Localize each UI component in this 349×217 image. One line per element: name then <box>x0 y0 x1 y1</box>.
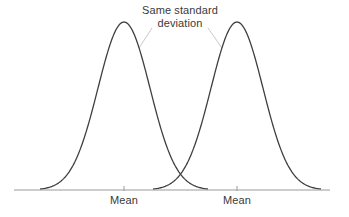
leader-lines-group <box>139 28 222 48</box>
curves-group <box>40 22 321 189</box>
normal-distributions-figure: Same standard deviation Mean Mean <box>0 0 349 217</box>
leader-line-left <box>139 28 152 48</box>
axis-label-mean-left: Mean <box>94 194 154 206</box>
axis-label-mean-right: Mean <box>207 194 267 206</box>
leader-line-right <box>208 28 222 48</box>
normal-curve-right <box>153 22 321 189</box>
annotation-same-standard-deviation: Same standard deviation <box>122 4 238 29</box>
annotation-line-1: Same standard <box>122 4 238 17</box>
figure-canvas <box>0 0 349 217</box>
normal-curve-left <box>40 22 208 189</box>
axis-group <box>14 186 330 191</box>
annotation-line-2: deviation <box>122 17 238 30</box>
